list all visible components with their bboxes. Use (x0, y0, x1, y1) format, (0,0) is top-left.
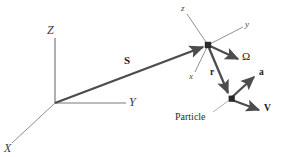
vector-label-Omega: Ω (242, 51, 250, 62)
particle-leader-line (213, 101, 228, 112)
vector-diagram-figure: Z Y X z y x S r Ω a V Particle (0, 0, 286, 157)
vector-label-r: r (210, 68, 214, 78)
vector-label-a: a (259, 68, 264, 78)
axis-label-Y: Y (129, 96, 136, 108)
axis-label-x-small: x (189, 72, 193, 81)
axis-y-small-line (208, 27, 243, 45)
vector-Omega-shaft (210, 46, 238, 59)
particle-node (229, 96, 235, 102)
vector-a-shaft (231, 77, 254, 98)
axis-label-Z: Z (47, 24, 54, 36)
diagram-canvas (0, 0, 286, 157)
axis-label-X: X (4, 142, 11, 154)
vector-V-shaft (232, 100, 259, 110)
vector-V-group (232, 100, 259, 110)
satellite-node (205, 42, 211, 48)
axis-label-y-small: y (245, 20, 249, 29)
global-frame-axes (12, 38, 126, 143)
annotation-label-particle: Particle (175, 112, 206, 122)
vector-label-V: V (264, 104, 271, 114)
axis-z-small-line (187, 14, 208, 45)
vector-a-group (231, 77, 254, 98)
axis-label-z-small: z (181, 4, 185, 13)
vector-label-S: S (124, 55, 130, 66)
axis-X-line (12, 103, 55, 143)
vector-Omega-group (210, 46, 238, 59)
particle-leader-group (213, 101, 228, 112)
